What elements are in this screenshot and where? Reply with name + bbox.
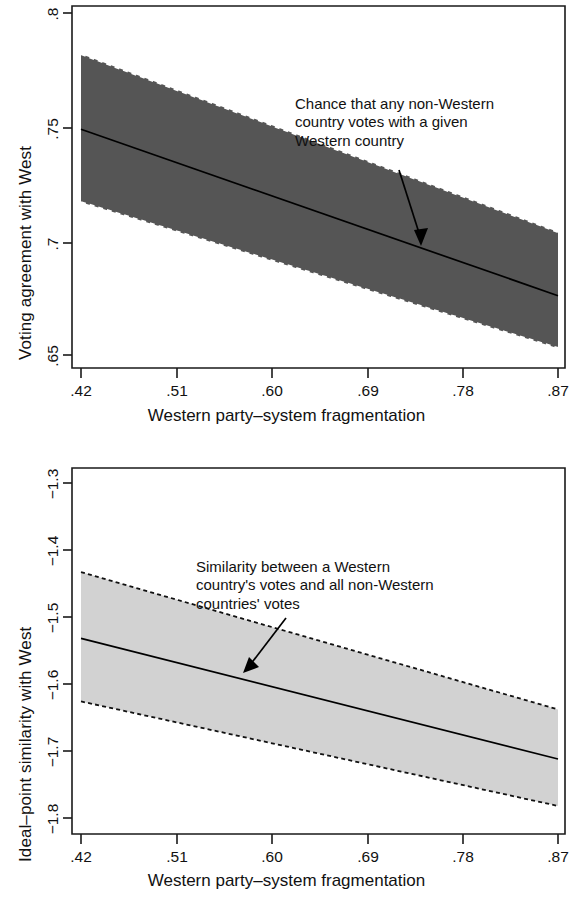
y-tick-label-bottom-0: −1.3	[44, 452, 62, 516]
x-tick-marks-bottom	[81, 834, 558, 844]
annotation-text-top: Chance that any non-Western country vote…	[295, 95, 494, 150]
x-axis-title-bottom: Western party–system fragmentation	[0, 871, 573, 891]
y-tick-marks-top	[63, 13, 72, 355]
y-axis-title-top: Voting agreement with West	[16, 146, 36, 360]
x-tick-label-bottom-3: .69	[338, 848, 398, 866]
x-tick-marks-top	[81, 368, 558, 378]
y-tick-label-bottom-1: −1.4	[44, 519, 62, 583]
chart-panel-ideal-point-similarity: Ideal–point similarity with West −1.3 −1…	[0, 450, 573, 900]
y-tick-label-bottom-5: −1.8	[44, 787, 62, 851]
x-tick-label-top-1: .51	[147, 382, 207, 400]
x-tick-label-top-5: .87	[528, 382, 573, 400]
y-tick-label-top-2: .7	[44, 227, 62, 261]
y-tick-label-top-1: .75	[44, 106, 62, 152]
annotation-text-bottom: Similarity between a Western country's v…	[196, 558, 434, 613]
plot-area-bottom	[0, 450, 573, 900]
y-tick-label-bottom-2: −1.5	[44, 586, 62, 650]
x-tick-label-top-2: .60	[242, 382, 302, 400]
y-tick-label-top-3: .65	[44, 333, 62, 379]
y-tick-label-top-0: .8	[44, 0, 62, 31]
x-tick-label-bottom-0: .42	[51, 848, 111, 866]
x-axis-title-top: Western party–system fragmentation	[0, 406, 573, 426]
x-tick-label-top-3: .69	[338, 382, 398, 400]
y-axis-title-bottom: Ideal–point similarity with West	[16, 627, 36, 862]
x-tick-label-top-0: .42	[51, 382, 111, 400]
y-tick-label-bottom-4: −1.7	[44, 720, 62, 784]
x-tick-label-bottom-4: .78	[433, 848, 493, 866]
x-tick-label-bottom-2: .60	[242, 848, 302, 866]
y-tick-label-bottom-3: −1.6	[44, 653, 62, 717]
x-tick-label-bottom-5: .87	[528, 848, 573, 866]
y-tick-marks-bottom	[63, 483, 72, 818]
chart-panel-voting-agreement: Voting agreement with West .8 .75 .7 .65…	[0, 0, 573, 450]
x-tick-label-bottom-1: .51	[147, 848, 207, 866]
x-tick-label-top-4: .78	[433, 382, 493, 400]
figure-two-panel-chart: Voting agreement with West .8 .75 .7 .65…	[0, 0, 573, 900]
